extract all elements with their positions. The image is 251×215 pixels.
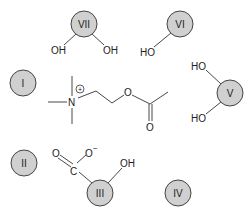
site-iii-label: III: [96, 188, 104, 199]
site-ii-label: II: [21, 158, 27, 169]
bond-vii-oh-left: [64, 34, 76, 45]
bond-vii-oh-right: [92, 34, 104, 45]
site-v-label: V: [227, 88, 234, 99]
bond-iii-c: [79, 172, 92, 183]
site-iii: III: [87, 180, 113, 206]
binding-site-diagram: OH OH HO HO HO OH O O − C N + O O VII VI…: [0, 0, 251, 215]
bond-iii-oh: [108, 168, 122, 183]
site-i-label: I: [22, 78, 25, 89]
ammonium-n-label: N: [68, 97, 75, 108]
v-ho-bottom-label: HO: [191, 113, 206, 124]
carbonyl-o-label: O: [146, 122, 154, 133]
bond-c-o-double-a: [60, 155, 73, 164]
v-ho-top-label: HO: [191, 61, 206, 72]
vii-oh-left-label: OH: [51, 45, 66, 56]
bond-v-ho-bottom: [206, 102, 221, 114]
bond-vi-ho: [154, 33, 171, 47]
site-vii-label: VII: [78, 19, 90, 30]
site-vi-label: VI: [175, 19, 184, 30]
bond-ethyl-chain: [78, 91, 124, 103]
bond-o-carbonyl-c: [132, 95, 150, 104]
carboxylate-minus-sign: −: [93, 144, 98, 153]
bond-v-ho-top: [206, 70, 221, 84]
site-vi: VI: [167, 11, 193, 37]
ester-o-label: O: [124, 87, 132, 98]
site-iv-label: IV: [173, 188, 183, 199]
iii-oh-label: OH: [120, 158, 135, 169]
carboxylate-o-label: O: [52, 148, 60, 159]
positive-charge-sign: +: [78, 86, 82, 93]
vii-oh-right-label: OH: [103, 45, 118, 56]
vi-ho-label: HO: [140, 47, 155, 58]
site-ii: II: [11, 150, 37, 176]
site-vii: VII: [71, 11, 97, 37]
carboxylate-ominus-label: O: [85, 148, 93, 159]
bond-acetyl-methyl: [150, 92, 168, 104]
carboxylate-c-label: C: [70, 166, 77, 177]
site-v: V: [217, 80, 243, 106]
site-iv: IV: [165, 180, 191, 206]
site-i: I: [10, 70, 36, 96]
